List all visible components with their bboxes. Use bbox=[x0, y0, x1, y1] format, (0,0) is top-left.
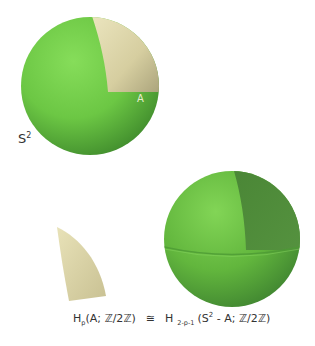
rhs-sphere: (S bbox=[197, 312, 208, 325]
rhs-degree: 2-p-1 bbox=[177, 319, 194, 327]
region-a-label: A bbox=[137, 93, 144, 104]
isomorphism-symbol: ≅ bbox=[146, 312, 155, 325]
rhs-arguments: - A; ℤ/2ℤ) bbox=[213, 312, 270, 325]
topology-figure bbox=[0, 0, 315, 346]
rhs-homology-symbol: H bbox=[165, 312, 173, 325]
sphere-with-region bbox=[21, 10, 162, 155]
lhs-arguments: (A; ℤ/2ℤ) bbox=[85, 312, 135, 325]
alexander-duality-formula: Hp(A; ℤ/2ℤ)≅H2-p-1(S2 - A; ℤ/2ℤ) bbox=[73, 311, 270, 327]
sphere-label: S2 bbox=[18, 131, 31, 146]
sphere-minus-region bbox=[164, 165, 305, 307]
detached-region-a bbox=[57, 227, 106, 301]
sphere-label-exp: 2 bbox=[26, 131, 31, 140]
